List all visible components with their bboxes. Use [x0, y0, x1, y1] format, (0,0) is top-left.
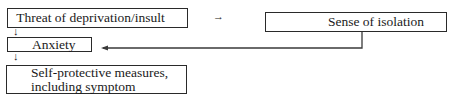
node-self-protective-label-line1: Self-protective measures, — [31, 66, 186, 80]
node-self-protective: Self-protective measures, including symp… — [6, 65, 187, 94]
arrow-down-icon: ↓ — [13, 51, 19, 62]
node-self-protective-label-line2: including symptom — [31, 80, 186, 94]
